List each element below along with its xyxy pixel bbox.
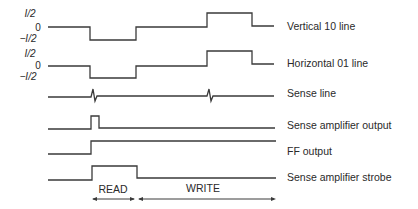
arrowhead-right	[130, 197, 135, 201]
arrowhead-left	[92, 197, 97, 201]
signal-label-sense-amp-output: Sense amplifier output	[287, 119, 392, 131]
level-label-high-2: I/2	[24, 48, 36, 59]
waveform-sense-amp-strobe	[48, 166, 276, 180]
waveform-sense-line	[48, 89, 274, 101]
level-label-high-1: I/2	[24, 8, 36, 19]
read-span-arrow	[92, 197, 135, 201]
phase-label-write: WRITE	[186, 182, 220, 194]
waveform-ff-output	[48, 141, 276, 154]
write-span-arrow	[138, 197, 276, 201]
signal-label-vertical: Vertical 10 line	[287, 20, 355, 32]
waveform-horizontal-line	[48, 51, 274, 78]
arrowhead-right	[271, 197, 276, 201]
level-label-low-1: −I/2	[20, 33, 37, 44]
signal-label-sense: Sense line	[287, 87, 336, 99]
level-label-low-2: −I/2	[20, 71, 37, 82]
waveform-vertical-line	[48, 13, 274, 40]
arrowhead-left	[138, 197, 143, 201]
signal-label-ff-output: FF output	[287, 145, 332, 157]
level-label-zero-1: 0	[35, 22, 41, 33]
phase-label-read: READ	[98, 183, 128, 195]
signal-label-horizontal: Horizontal 01 line	[287, 57, 368, 69]
signal-label-sense-amp-strobe: Sense amplifier strobe	[287, 171, 392, 183]
waveform-sense-amp-output	[48, 116, 275, 129]
timing-diagram: I/2 0 −I/2 I/2 0 −I/2 Vertical 10 line H…	[0, 0, 418, 209]
level-label-zero-2: 0	[35, 60, 41, 71]
